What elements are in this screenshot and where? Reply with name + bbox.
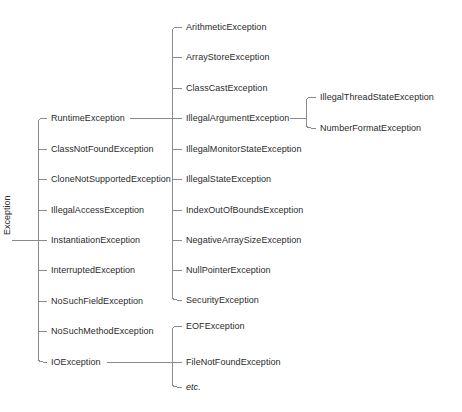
node-label-runtimeexception: RuntimeException (51, 113, 125, 123)
branch-line-etc (172, 382, 182, 387)
branch-line-arithmeticexception (172, 27, 182, 32)
node-label-numberformatexception: NumberFormatException (320, 123, 421, 133)
node-label-nosuchmethodexception: NoSuchMethodException (51, 326, 154, 336)
node-label-filenotfoundexception: FileNotFoundException (186, 357, 281, 367)
node-label-illegalargumentexception: IllegalArgumentException (186, 113, 289, 123)
branch-line-illegalthreadstateexception (306, 97, 316, 102)
node-label-arraystoreexception: ArrayStoreException (186, 52, 270, 62)
node-label-illegalmonitorstateexception: IllegalMonitorStateException (186, 144, 301, 154)
root-node-exception-label: Exception (2, 195, 12, 235)
node-label-nosuchfieldexception: NoSuchFieldException (51, 296, 143, 306)
branch-line-securityexception (172, 295, 182, 300)
branch-line-runtimeexception (38, 118, 47, 123)
node-label-negativearraysizeexception: NegativeArraySizeException (186, 235, 301, 245)
node-label-classnotfoundexception: ClassNotFoundException (51, 144, 154, 154)
branch-line-numberformatexception (306, 123, 316, 128)
node-label-illegalaccessexception: IllegalAccessException (51, 205, 144, 215)
node-label-securityexception: SecurityException (186, 295, 259, 305)
exception-hierarchy-diagram: RuntimeExceptionClassNotFoundExceptionCl… (0, 0, 462, 412)
branch-line-ioexception (38, 357, 47, 362)
node-label-illegalstateexception: IllegalStateException (186, 174, 271, 184)
node-label-arithmeticexception: ArithmeticException (186, 22, 266, 32)
node-label-etc: etc. (186, 382, 201, 392)
node-label-ioexception: IOException (51, 357, 101, 367)
node-label-clonenotsupportedexception: CloneNotSupportedException (51, 174, 171, 184)
node-label-illegalthreadstateexception: IllegalThreadStateException (320, 92, 434, 102)
node-label-nullpointerexception: NullPointerException (186, 265, 271, 275)
node-label-instantiationexception: InstantiationException (51, 235, 140, 245)
node-label-interruptedexception: InterruptedException (51, 265, 135, 275)
node-label-classcastexception: ClassCastException (186, 83, 267, 93)
branch-line-eofexception (172, 326, 182, 331)
node-label-indexoutofboundsexception: IndexOutOfBoundsException (186, 205, 303, 215)
node-label-eofexception: EOFException (186, 321, 245, 331)
